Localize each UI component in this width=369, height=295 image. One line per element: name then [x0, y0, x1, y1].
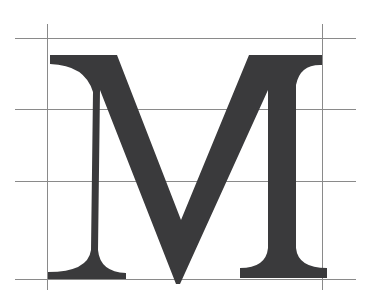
glyph-m	[48, 55, 327, 284]
letterform-diagram	[0, 0, 369, 295]
